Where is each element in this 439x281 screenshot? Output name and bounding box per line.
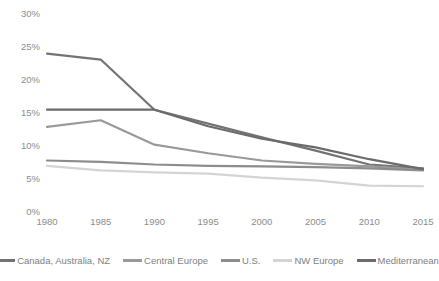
legend-item-label: Mediterranean (378, 255, 439, 266)
y-tick-label: 10% (21, 141, 40, 151)
legend-swatch-icon (221, 259, 240, 262)
legend-swatch-icon (0, 259, 15, 262)
x-tick-label: 2015 (412, 216, 433, 227)
y-tick-label: 5% (26, 174, 40, 184)
legend-item[interactable]: NW Europe (273, 255, 343, 266)
legend-item-label: NW Europe (294, 255, 343, 266)
legend-item-label: Canada, Australia, NZ (17, 255, 110, 266)
x-tick-label: 1980 (36, 216, 57, 227)
y-tick-label: 25% (21, 42, 40, 52)
x-tick-label: 1985 (90, 216, 111, 227)
plot-area (47, 14, 423, 212)
legend-item-label: U.S. (242, 255, 260, 266)
series-line (47, 54, 423, 169)
legend-swatch-icon (273, 259, 292, 262)
x-tick-label: 2005 (305, 216, 326, 227)
y-axis: 0%5%10%15%20%25%30% (0, 0, 44, 226)
legend-item[interactable]: Mediterranean (357, 255, 439, 266)
legend-item-label: Central Europe (144, 255, 208, 266)
legend-swatch-icon (357, 259, 376, 262)
y-tick-label: 15% (21, 108, 40, 118)
x-tick-label: 1990 (144, 216, 165, 227)
x-tick-label: 2010 (359, 216, 380, 227)
x-axis: 19801985199019952000200520102015 (47, 216, 423, 234)
series-line (47, 110, 423, 169)
y-tick-label: 30% (21, 9, 40, 19)
legend-item[interactable]: Canada, Australia, NZ (0, 255, 110, 266)
legend-item[interactable]: Central Europe (123, 255, 208, 266)
plot-svg (47, 14, 423, 212)
chart-legend: Canada, Australia, NZCentral EuropeU.S.N… (0, 250, 435, 270)
legend-swatch-icon (123, 259, 142, 262)
legend-item[interactable]: U.S. (221, 255, 260, 266)
y-tick-label: 20% (21, 75, 40, 85)
x-tick-label: 1995 (198, 216, 219, 227)
x-tick-label: 2000 (251, 216, 272, 227)
